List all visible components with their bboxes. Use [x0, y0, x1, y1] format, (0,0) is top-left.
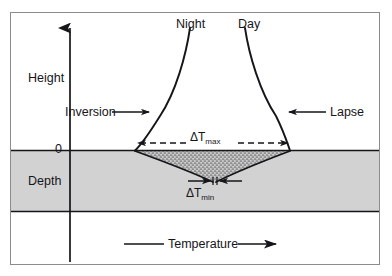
- annotation-label-inversion: Inversion: [65, 106, 116, 119]
- axis-tick-zero: 0: [55, 143, 62, 156]
- annotation-label-delta-t-max: ΔTmax: [190, 131, 220, 143]
- day-curve: [245, 28, 290, 151]
- delta-t-max-subscript: max: [205, 137, 220, 146]
- axis-label-temperature: Temperature: [168, 238, 238, 251]
- annotation-label-delta-t-min: ΔTmin: [186, 187, 214, 199]
- axis-label-height: Height: [28, 72, 64, 85]
- annotation-label-lapse: Lapse: [330, 106, 364, 119]
- curve-label-night: Night: [176, 18, 205, 31]
- night-curve: [135, 28, 190, 151]
- delta-t-min-subscript: min: [201, 193, 214, 202]
- figure-container: Height Depth 0 Night Day Inversion Lapse…: [0, 0, 392, 276]
- axis-label-depth: Depth: [28, 175, 61, 188]
- delta-t-min-symbol: ΔT: [186, 186, 201, 200]
- curve-label-day: Day: [238, 18, 260, 31]
- delta-t-max-symbol: ΔT: [190, 130, 205, 144]
